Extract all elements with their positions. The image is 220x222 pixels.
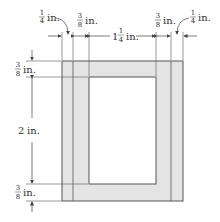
- svg-text:in.: in.: [27, 125, 40, 136]
- svg-text:8: 8: [16, 70, 20, 78]
- svg-text:8: 8: [156, 21, 160, 29]
- svg-text:in.: in.: [126, 31, 139, 42]
- svg-text:4: 4: [191, 17, 196, 25]
- svg-text:4: 4: [40, 17, 45, 25]
- svg-text:3: 3: [78, 12, 82, 20]
- top-labels: 1 4 in. 3 8 in. 1 1 4 in. 3 8 in. 1 4: [39, 9, 211, 44]
- dim-right-inner: 3 8 in.: [155, 12, 176, 29]
- dim-left-outer: 1 4 in.: [39, 9, 60, 25]
- dim-right-outer: 1 4 in.: [190, 9, 211, 25]
- svg-text:in.: in.: [23, 64, 36, 75]
- frame-diagram: 1 4 in. 3 8 in. 1 1 4 in. 3 8 in. 1 4: [0, 0, 220, 222]
- svg-text:in.: in.: [163, 15, 176, 26]
- svg-text:1: 1: [112, 31, 118, 42]
- svg-text:2: 2: [18, 125, 24, 136]
- svg-text:in.: in.: [85, 15, 98, 26]
- svg-text:3: 3: [16, 184, 20, 192]
- dim-window-height: 2 in.: [18, 125, 40, 136]
- svg-text:3: 3: [16, 61, 20, 69]
- svg-text:in.: in.: [47, 12, 60, 23]
- svg-text:in.: in.: [198, 12, 211, 23]
- dim-bottom-rail: 3 8 in.: [15, 184, 36, 201]
- svg-text:1: 1: [119, 27, 123, 35]
- frame: [62, 61, 183, 201]
- dim-top-rail: 3 8 in.: [15, 61, 36, 78]
- svg-text:1: 1: [191, 9, 195, 17]
- frame-window: [89, 77, 156, 184]
- svg-text:3: 3: [156, 12, 160, 20]
- dim-center: 1 1 4 in.: [112, 27, 139, 44]
- left-labels: 3 8 in. 2 in. 3 8 in.: [15, 61, 40, 201]
- dim-left-inner: 3 8 in.: [77, 12, 98, 29]
- svg-text:8: 8: [78, 21, 82, 29]
- svg-text:in.: in.: [23, 187, 36, 198]
- svg-text:8: 8: [16, 193, 20, 201]
- svg-text:4: 4: [119, 36, 124, 44]
- svg-text:1: 1: [40, 9, 44, 17]
